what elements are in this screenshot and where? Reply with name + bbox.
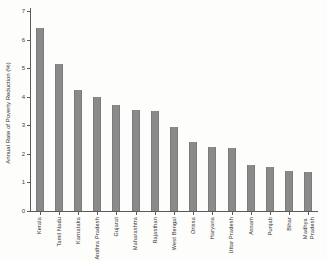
y-tick-mark bbox=[27, 40, 30, 41]
x-category-label: Maharashtra bbox=[132, 217, 139, 250]
bar-karnataka bbox=[74, 90, 82, 211]
x-tick-mark bbox=[270, 212, 271, 215]
x-category-label: Assam bbox=[248, 217, 255, 235]
x-category-label: Kerala bbox=[36, 217, 43, 234]
x-category-label: Gujarat bbox=[113, 217, 120, 236]
x-category-label: Uttar Pradesh bbox=[228, 217, 235, 254]
y-tick-label: 6 bbox=[15, 37, 25, 43]
x-category-label: Tamil Nadu bbox=[56, 217, 63, 247]
y-tick-label: 4 bbox=[15, 94, 25, 100]
y-tick-mark bbox=[27, 211, 30, 212]
x-tick-mark bbox=[193, 212, 194, 215]
y-tick-label: 1 bbox=[15, 179, 25, 185]
x-tick-mark bbox=[232, 212, 233, 215]
y-tick-label: 2 bbox=[15, 151, 25, 157]
y-tick-mark bbox=[27, 125, 30, 126]
bar-rajasthan bbox=[151, 111, 159, 211]
y-tick-mark bbox=[27, 97, 30, 98]
bar-gujarat bbox=[112, 105, 120, 211]
y-tick-mark bbox=[27, 182, 30, 183]
x-tick-mark bbox=[40, 212, 41, 215]
bar-tamil-nadu bbox=[55, 64, 63, 211]
x-tick-mark bbox=[155, 212, 156, 215]
poverty-reduction-bar-chart: Annual Rate of Poverty Reduction (%) 012… bbox=[0, 0, 327, 262]
y-tick-label: 0 bbox=[15, 208, 25, 214]
bar-haryana bbox=[208, 147, 216, 211]
y-tick-mark bbox=[27, 154, 30, 155]
y-axis-line bbox=[30, 8, 31, 212]
bar-andhra-pradesh bbox=[93, 97, 101, 211]
x-category-label: Karnataka bbox=[75, 217, 82, 244]
bar-punjab bbox=[266, 167, 274, 211]
x-tick-mark bbox=[212, 212, 213, 215]
x-tick-mark bbox=[308, 212, 309, 215]
bar-bihar bbox=[285, 171, 293, 211]
bar-madhya-pradesh bbox=[304, 172, 312, 211]
y-tick-mark bbox=[27, 68, 30, 69]
y-tick-label: 7 bbox=[15, 8, 25, 14]
x-category-label: Andhra Pradesh bbox=[94, 217, 101, 260]
bar-assam bbox=[247, 165, 255, 211]
x-tick-mark bbox=[289, 212, 290, 215]
y-tick-mark bbox=[27, 11, 30, 12]
x-category-label: West Bengal bbox=[171, 217, 178, 250]
plot-area: Annual Rate of Poverty Reduction (%) 012… bbox=[0, 0, 327, 262]
y-tick-label: 5 bbox=[15, 65, 25, 71]
bar-orissa bbox=[189, 142, 197, 211]
bar-kerala bbox=[36, 28, 44, 211]
x-category-label: Rajasthan bbox=[152, 217, 159, 244]
x-tick-mark bbox=[251, 212, 252, 215]
x-tick-mark bbox=[174, 212, 175, 215]
x-category-label: Bihar bbox=[286, 217, 293, 231]
x-category-label: Haryana bbox=[209, 217, 216, 239]
y-tick-label: 3 bbox=[15, 122, 25, 128]
bar-uttar-pradesh bbox=[228, 148, 236, 211]
x-tick-mark bbox=[78, 212, 79, 215]
bar-maharashtra bbox=[132, 110, 140, 211]
x-tick-mark bbox=[136, 212, 137, 215]
bar-west-bengal bbox=[170, 127, 178, 211]
x-category-label: Punjab bbox=[267, 217, 274, 235]
y-axis-title: Annual Rate of Poverty Reduction (%) bbox=[5, 43, 11, 183]
x-category-label: Madhya Pradesh bbox=[302, 217, 315, 239]
x-tick-mark bbox=[97, 212, 98, 215]
x-category-label: Orissa bbox=[190, 217, 197, 234]
x-tick-mark bbox=[116, 212, 117, 215]
x-tick-mark bbox=[59, 212, 60, 215]
